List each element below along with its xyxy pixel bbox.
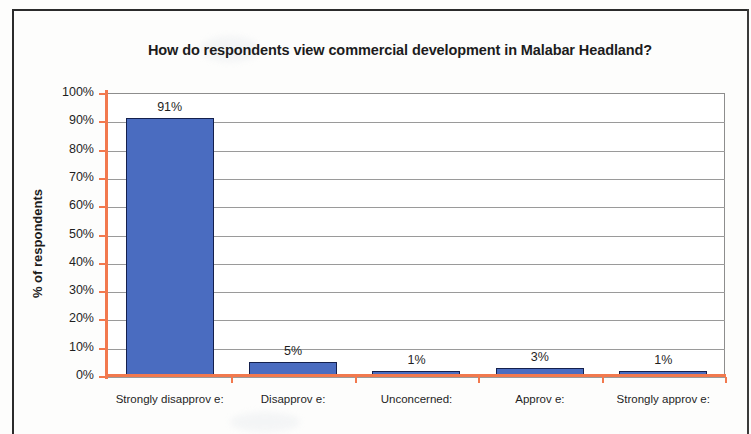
y-axis-tick-label: 30% — [34, 283, 94, 297]
x-axis-tick-label: Approv e: — [478, 393, 601, 405]
page-border-top — [12, 9, 749, 11]
plot-area: 91%5%1%3%1% — [108, 93, 725, 376]
y-axis-tick-mark — [99, 376, 106, 378]
y-axis-tick-mark — [99, 121, 106, 123]
scanned-page: How do respondents view commercial devel… — [0, 0, 751, 434]
bar-slot: 3% — [478, 93, 601, 376]
bar-value-label: 1% — [407, 353, 425, 367]
x-axis-tick-label: Unconcerned: — [355, 393, 478, 405]
y-axis-tick-label: 0% — [34, 368, 94, 382]
bar[interactable] — [126, 118, 214, 376]
bar-value-label: 3% — [531, 350, 549, 364]
x-axis-line — [105, 374, 726, 377]
x-axis-tick-labels: Strongly disapprov e:Disapprov e:Unconce… — [108, 393, 725, 413]
y-axis-tick-label: 50% — [34, 227, 94, 241]
bar-value-label: 91% — [157, 100, 182, 114]
y-axis-tick-mark — [99, 348, 106, 350]
page-border-right — [747, 9, 749, 434]
bar-slot: 5% — [231, 93, 354, 376]
y-axis-tick-label: 60% — [34, 198, 94, 212]
x-axis-tick-mark — [725, 377, 727, 383]
bar-value-label: 1% — [654, 353, 672, 367]
y-axis-tick-mark — [99, 319, 106, 321]
plot-area-wrapper: 91%5%1%3%1% — [108, 93, 725, 376]
y-axis-tick-mark — [99, 206, 106, 208]
y-axis-tick-mark — [99, 150, 106, 152]
x-axis-tick-mark — [602, 377, 604, 383]
x-axis-tick-mark — [231, 377, 233, 383]
y-axis-tick-labels: 100%90%80%70%60%50%40%30%20%10%0% — [32, 0, 94, 434]
x-axis-tick-label: Strongly approv e: — [602, 393, 725, 405]
chart-title: How do respondents view commercial devel… — [60, 42, 740, 58]
gridline — [108, 377, 725, 378]
y-axis-tick-mark — [99, 235, 106, 237]
y-axis-tick-label: 80% — [34, 142, 94, 156]
y-axis-tick-mark — [99, 178, 106, 180]
y-axis-tick-label: 100% — [34, 85, 94, 99]
bar-slot: 1% — [602, 93, 725, 376]
y-axis-tick-label: 10% — [34, 340, 94, 354]
bar-slot: 1% — [355, 93, 478, 376]
x-axis-tick-label: Strongly disapprov e: — [108, 393, 231, 405]
y-axis-tick-label: 90% — [34, 113, 94, 127]
x-axis-tick-mark — [478, 377, 480, 383]
y-axis-tick-mark — [99, 93, 106, 95]
bar-slot: 91% — [108, 93, 231, 376]
y-axis-tick-label: 70% — [34, 170, 94, 184]
y-axis-tick-label: 20% — [34, 311, 94, 325]
y-axis-tick-mark — [99, 291, 106, 293]
bar-value-label: 5% — [284, 344, 302, 358]
y-axis-tick-label: 40% — [34, 255, 94, 269]
x-axis-tick-label: Disapprov e: — [231, 393, 354, 405]
x-axis-tick-mark — [355, 377, 357, 383]
y-axis-tick-mark — [99, 263, 106, 265]
